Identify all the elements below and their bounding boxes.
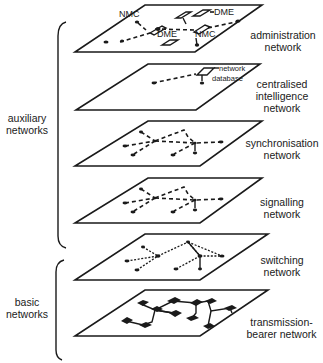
label-line: network xyxy=(250,208,314,220)
label-line: network xyxy=(244,41,322,53)
annotation-network: network xyxy=(219,64,246,73)
group-label-line: auxiliary xyxy=(2,112,52,124)
label-line: synchronisation xyxy=(242,137,322,149)
auxiliary-brace xyxy=(58,22,66,248)
plane-switching xyxy=(75,234,268,280)
plane-signalling xyxy=(75,178,262,223)
layer-signalling xyxy=(75,178,262,223)
annotation-database: database xyxy=(212,74,243,83)
label-administration-network: administration network xyxy=(244,29,322,53)
label-line: bearer network xyxy=(240,328,323,340)
layer-switching xyxy=(75,234,268,280)
label-switching-network: switching network xyxy=(250,254,314,278)
label-line: centralised xyxy=(250,78,314,90)
layer-centralised-intelligence: network database xyxy=(76,64,260,110)
label-line: network xyxy=(242,149,322,161)
layer-synchronisation xyxy=(75,121,262,166)
label-signalling-network: signalling network xyxy=(250,196,314,220)
label-centralised-intelligence-network: centralised intelligence network xyxy=(250,78,314,114)
plane-synchronisation xyxy=(75,121,262,166)
group-label-line: basic xyxy=(2,296,52,308)
label-line: intelligence xyxy=(250,90,314,102)
annotation-nmc-bottom: NMC xyxy=(195,29,216,39)
group-label-line: networks xyxy=(2,308,52,320)
basic-brace xyxy=(56,260,64,360)
label-transmission-bearer-network: transmission- bearer network xyxy=(240,316,323,340)
annotation-dme-top: DME xyxy=(214,7,234,17)
annotation-nmc-top: NMC xyxy=(119,9,140,19)
annotation-dme-bottom: DME xyxy=(157,29,177,39)
label-line: signalling xyxy=(250,196,314,208)
group-label-basic: basic networks xyxy=(2,296,52,320)
label-line: network xyxy=(250,266,314,278)
group-label-line: networks xyxy=(2,124,52,136)
group-label-auxiliary: auxiliary networks xyxy=(2,112,52,136)
layer-administration: NMC DME DME NMC xyxy=(75,5,262,52)
label-synchronisation-network: synchronisation network xyxy=(242,137,322,161)
label-line: network xyxy=(250,102,314,114)
label-line: transmission- xyxy=(240,316,323,328)
label-line: administration xyxy=(244,29,322,41)
label-line: switching xyxy=(250,254,314,266)
